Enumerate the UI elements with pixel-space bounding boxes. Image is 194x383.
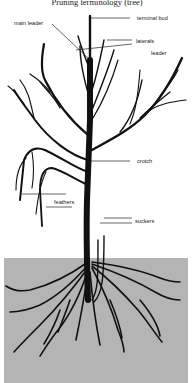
- label-main-leader: main leader: [14, 20, 43, 27]
- label-laterals: laterals: [136, 38, 154, 45]
- line-laterals-2: [76, 44, 132, 50]
- label-terminal-bud: terminal bud: [137, 15, 168, 22]
- branch-right-main: [92, 58, 182, 150]
- label-leader: leader: [151, 50, 167, 57]
- branch-right-top: [130, 70, 140, 124]
- feather-drop-1b: [32, 152, 34, 188]
- branch-left-sub1: [40, 82, 60, 108]
- label-feathers: feathers: [54, 199, 74, 206]
- tree-diagram: [0, 0, 194, 383]
- branch-far-left-sub: [20, 80, 34, 118]
- branch-right-sub2: [140, 92, 170, 118]
- label-lines: [22, 18, 132, 223]
- label-crotch: crotch: [137, 158, 152, 165]
- label-suckers: suckers: [135, 218, 154, 225]
- branch-center-right3: [93, 60, 118, 118]
- line-main-leader: [52, 24, 88, 58]
- feather-branch-2: [40, 168, 88, 226]
